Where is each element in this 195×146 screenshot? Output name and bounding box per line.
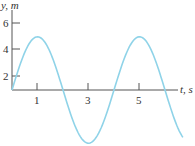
y-tick-label-2: 2	[3, 70, 9, 82]
y-tick-label-6: 6	[3, 17, 9, 29]
x-tick-label-1: 1	[34, 94, 40, 106]
y-axis-label: y, m	[0, 0, 19, 11]
x-tick-label-5: 5	[136, 94, 142, 106]
x-tick-label-3: 3	[85, 94, 91, 106]
chart: 6 4 2 1 3 5 y, m t, s	[0, 0, 195, 146]
y-tick-label-4: 4	[3, 43, 9, 55]
x-axis-label: t, s	[180, 83, 193, 95]
